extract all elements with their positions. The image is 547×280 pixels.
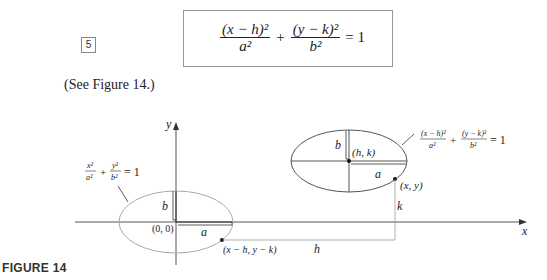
svg-text:b²: b² <box>470 141 477 150</box>
y-axis-label: y <box>165 117 172 131</box>
svg-text:x²: x² <box>86 161 94 170</box>
y-axis-arrow-icon <box>173 122 179 130</box>
svg-text:= 1: = 1 <box>124 165 140 179</box>
svg-text:y²: y² <box>111 161 119 170</box>
svg-text:a²: a² <box>86 173 93 182</box>
svg-text:a²: a² <box>429 141 436 150</box>
svg-text:+: + <box>450 134 456 146</box>
svg-text:(x, y): (x, y) <box>400 179 423 192</box>
svg-text:b: b <box>162 199 168 213</box>
svg-text:(x − h)²: (x − h)² <box>421 129 446 138</box>
svg-text:b: b <box>335 138 341 152</box>
svg-text:a: a <box>375 167 381 181</box>
svg-text:(y − k)²: (y − k)² <box>462 129 487 138</box>
figure-14-diagram: x y b a (0, 0) (x − h, y − k) x² a² + y²… <box>0 0 547 280</box>
svg-text:+: + <box>100 166 106 178</box>
svg-text:(h, k): (h, k) <box>352 146 376 159</box>
figure-label: FIGURE 14 <box>2 261 67 275</box>
k-label: k <box>397 199 403 213</box>
h-label: h <box>314 242 320 256</box>
svg-text:(x − h, y − k): (x − h, y − k) <box>223 244 277 256</box>
center-point-hk <box>347 159 351 163</box>
svg-text:(0, 0): (0, 0) <box>152 223 174 235</box>
x-axis-label: x <box>521 224 528 238</box>
svg-text:= 1: = 1 <box>490 133 506 147</box>
svg-text:a: a <box>201 225 207 239</box>
svg-text:b²: b² <box>111 173 118 182</box>
hk-guide-lines <box>222 179 395 240</box>
